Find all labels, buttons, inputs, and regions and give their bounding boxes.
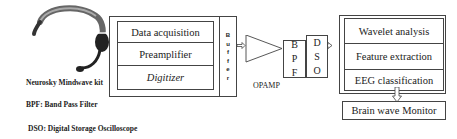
stage-wavelet-analysis: Wavelet analysis [344,18,444,44]
dso-label: DSO [306,35,328,78]
headset-icon [28,2,118,80]
bpf-label: BPF [283,40,306,78]
stage-digitizer: Digitizer [117,65,214,90]
stage-data-acquisition: Data acquisition [117,21,214,43]
stage-preamplifier: Preamplifier [117,42,214,66]
opamp-label: OPAMP [253,81,280,90]
brain-wave-monitor: Brain wave Monitor [342,101,446,120]
legend-dso: DSO: Digital Storage Oscilloscope [28,124,137,133]
legend-bpf: BPF: Band Pass Filter [26,100,97,109]
buffer-label: B u f f e r [219,16,237,97]
headset-label: Neurosky Mindwave kit [26,78,103,87]
stage-feature-extraction: Feature extraction [344,43,444,70]
